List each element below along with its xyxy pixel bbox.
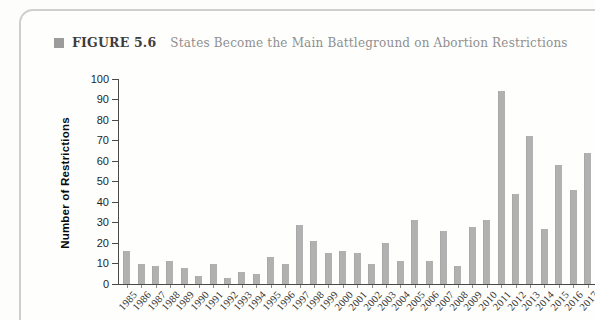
x-tick-mark [559, 285, 560, 288]
x-tick-mark [588, 285, 589, 288]
bar [483, 220, 490, 284]
x-tick-mark [530, 285, 531, 288]
bar [354, 253, 361, 284]
y-tick-mark [112, 222, 118, 223]
bar [526, 136, 533, 284]
bar [469, 227, 476, 284]
bar [339, 251, 346, 284]
x-tick-mark [386, 285, 387, 288]
bar [253, 274, 260, 284]
y-tick-mark [112, 99, 118, 100]
x-tick-mark [256, 285, 257, 288]
bar [584, 153, 591, 284]
y-tick-mark [112, 284, 118, 285]
figure-border-box: FIGURE 5.6 States Become the Main Battle… [19, 9, 595, 320]
bar [166, 261, 173, 284]
y-tick-label: 30 [57, 216, 109, 229]
y-tick-mark [112, 161, 118, 162]
x-tick-mark [156, 285, 157, 288]
bar [454, 266, 461, 284]
x-tick-mark [573, 285, 574, 288]
x-tick-mark [314, 285, 315, 288]
x-tick-mark [300, 285, 301, 288]
bar [123, 251, 130, 284]
x-tick-mark [501, 285, 502, 288]
bar [426, 261, 433, 284]
y-tick-mark [112, 140, 118, 141]
y-tick-mark [112, 181, 118, 182]
bar [382, 243, 389, 284]
bar [310, 241, 317, 284]
bar [368, 264, 375, 285]
x-tick-mark [127, 285, 128, 288]
x-tick-mark [271, 285, 272, 288]
bar [498, 91, 505, 284]
bar [411, 220, 418, 284]
bar [282, 264, 289, 285]
figure-page: FIGURE 5.6 States Become the Main Battle… [0, 0, 595, 320]
y-axis-line [118, 79, 119, 285]
y-tick-label: 60 [57, 155, 109, 168]
y-tick-label: 0 [57, 278, 109, 291]
x-tick-mark [170, 285, 171, 288]
bar [440, 231, 447, 284]
y-tick-label: 90 [57, 93, 109, 106]
bar [224, 278, 231, 284]
x-tick-mark [516, 285, 517, 288]
bar [210, 264, 217, 285]
x-tick-mark [544, 285, 545, 288]
bar [512, 194, 519, 284]
y-tick-mark [112, 202, 118, 203]
bar [570, 190, 577, 284]
x-tick-mark [415, 285, 416, 288]
bar [325, 253, 332, 284]
x-tick-mark [444, 285, 445, 288]
bar [267, 257, 274, 284]
x-tick-mark [357, 285, 358, 288]
bar [397, 261, 404, 284]
x-tick-mark [242, 285, 243, 288]
x-tick-mark [184, 285, 185, 288]
x-tick-mark [472, 285, 473, 288]
y-tick-mark [112, 243, 118, 244]
bar [296, 225, 303, 284]
bar [181, 268, 188, 284]
x-tick-mark [429, 285, 430, 288]
bar [138, 264, 145, 285]
x-tick-mark [343, 285, 344, 288]
bar [541, 229, 548, 284]
y-tick-label: 70 [57, 134, 109, 147]
bar [195, 276, 202, 284]
y-tick-label: 100 [57, 73, 109, 86]
x-tick-mark [228, 285, 229, 288]
bar [152, 266, 159, 284]
x-tick-mark [213, 285, 214, 288]
x-tick-mark [458, 285, 459, 288]
x-tick-mark [372, 285, 373, 288]
y-tick-label: 20 [57, 237, 109, 250]
y-tick-label: 40 [57, 196, 109, 209]
bar-chart: Number of Restrictions 01020304050607080… [21, 11, 595, 320]
x-tick-mark [141, 285, 142, 288]
x-tick-mark [487, 285, 488, 288]
bar [555, 165, 562, 284]
bar [238, 272, 245, 284]
y-tick-label: 10 [57, 257, 109, 270]
x-tick-mark [328, 285, 329, 288]
y-tick-label: 80 [57, 114, 109, 127]
y-tick-mark [112, 263, 118, 264]
y-tick-label: 50 [57, 175, 109, 188]
y-tick-mark [112, 120, 118, 121]
y-tick-mark [112, 79, 118, 80]
x-tick-mark [400, 285, 401, 288]
x-tick-mark [199, 285, 200, 288]
x-tick-mark [285, 285, 286, 288]
